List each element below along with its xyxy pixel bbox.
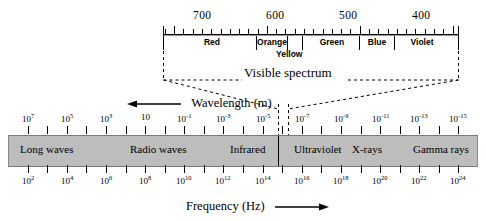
frequency-tick	[400, 165, 401, 173]
wavelength-tick	[341, 126, 342, 134]
wavelength-tick-label: 10-5	[256, 113, 270, 124]
wavelength-tick	[282, 126, 283, 134]
wavelength-tick-label: 10-7	[295, 113, 309, 124]
left-arrow-icon	[126, 99, 182, 109]
visible-minor-tick	[388, 29, 389, 34]
wavelength-axis-label: Wavelength (m)	[191, 96, 272, 110]
frequency-axis-ticks	[8, 165, 478, 174]
visible-minor-tick	[239, 29, 240, 34]
color-label-green: Green	[304, 38, 360, 47]
visible-minor-tick	[323, 29, 324, 34]
frequency-tick	[458, 165, 459, 173]
wavelength-tick-label: 10-11	[372, 113, 389, 124]
wavelength-tick	[204, 126, 205, 134]
visible-ruler-left-cap	[163, 26, 164, 35]
visible-minor-tick	[397, 29, 398, 34]
band-label-ultraviolet: Ultraviolet	[294, 143, 342, 155]
frequency-tick-label: 1018	[333, 175, 349, 186]
wavelength-tick	[243, 126, 244, 134]
frequency-tick	[145, 165, 146, 173]
frequency-tick	[302, 165, 303, 173]
color-label-blue: Blue	[359, 38, 395, 47]
band-label-xrays: X-rays	[352, 143, 382, 155]
visible-minor-tick	[350, 29, 351, 34]
band-label-gamma-rays: Gamma rays	[413, 143, 469, 155]
wavelength-tick	[263, 126, 264, 134]
wavelength-tick	[321, 126, 322, 134]
visible-minor-tick	[378, 29, 379, 34]
visible-minor-tick	[183, 29, 184, 34]
visible-minor-tick	[341, 29, 342, 34]
wavelength-tick	[439, 126, 440, 134]
frequency-tick-label: 1016	[294, 175, 310, 186]
em-spectrum-figure: 700 600 500 400 Red Orange Green Blue Vi…	[0, 0, 486, 221]
wavelength-tick-label: 103	[100, 113, 112, 124]
color-divider-start	[163, 36, 164, 50]
wavelength-tick-label: 107	[22, 113, 34, 124]
frequency-tick	[184, 165, 185, 173]
wavelength-tick-label: 10	[141, 113, 150, 122]
frequency-axis-label-group: Frequency (Hz)	[186, 199, 330, 214]
wavelength-tick	[184, 126, 185, 134]
visible-minor-tick	[443, 29, 444, 34]
frequency-tick	[361, 165, 362, 173]
color-divider-yellow-green	[302, 36, 303, 50]
wavelength-tick-label: 10-9	[334, 113, 348, 124]
frequency-tick-label: 1020	[372, 175, 388, 186]
frequency-tick	[204, 165, 205, 173]
visible-ruler-right-cap	[458, 26, 459, 35]
visible-minor-tick	[221, 29, 222, 34]
wavelength-tick-labels: 1071051031010-110-310-510-710-910-1110-1…	[0, 113, 486, 126]
visible-tick-500: 500	[339, 10, 357, 22]
frequency-tick	[86, 165, 87, 173]
frequency-axis-label: Frequency (Hz)	[186, 199, 265, 213]
frequency-tick	[126, 165, 127, 173]
band-label-radio-waves: Radio waves	[130, 143, 187, 155]
frequency-tick-label: 1022	[411, 175, 427, 186]
visible-minor-tick	[295, 29, 296, 34]
color-label-red: Red	[187, 38, 237, 47]
visible-minor-tick	[193, 29, 194, 34]
color-band-top-line	[163, 35, 459, 36]
visible-tick-400: 400	[412, 10, 430, 22]
visible-minor-tick	[258, 29, 259, 34]
spectrum-bar-right-edge	[477, 136, 478, 166]
frequency-tick	[243, 165, 244, 173]
frequency-tick	[165, 165, 166, 173]
wavelength-tick	[223, 126, 224, 134]
frequency-tick	[47, 165, 48, 173]
wavelength-tick	[165, 126, 166, 134]
frequency-tick-label: 102	[22, 175, 34, 186]
visible-color-bands: Red Orange Green Blue Violet	[163, 35, 459, 50]
visible-minor-tick	[406, 29, 407, 34]
visible-minor-tick	[304, 29, 305, 34]
visible-tick-700: 700	[193, 10, 211, 22]
frequency-tick	[282, 165, 283, 173]
spectrum-bar-left-edge	[8, 136, 9, 166]
frequency-tick	[28, 165, 29, 173]
band-label-long-waves: Long waves	[20, 143, 73, 155]
color-label-orange: Orange	[255, 38, 289, 47]
visible-tick-600: 600	[266, 10, 284, 22]
wavelength-tick	[126, 126, 127, 134]
visible-minor-tick	[332, 29, 333, 34]
wavelength-tick	[380, 126, 381, 134]
visible-minor-tick	[434, 29, 435, 34]
visible-minor-tick	[230, 29, 231, 34]
visible-major-tick	[360, 26, 361, 34]
frequency-tick	[321, 165, 322, 173]
wavelength-tick	[28, 126, 29, 134]
visible-minor-tick	[165, 29, 166, 34]
color-label-violet: Violet	[398, 38, 446, 47]
wavelength-tick	[361, 126, 362, 134]
visible-spectrum-ruler	[163, 26, 459, 35]
visible-minor-tick	[425, 29, 426, 34]
frequency-tick	[419, 165, 420, 173]
wavelength-tick	[67, 126, 68, 134]
visible-minor-tick	[285, 29, 286, 34]
visible-tick-labels: 700 600 500 400	[163, 10, 459, 24]
wavelength-tick-label: 10-15	[449, 113, 467, 124]
wavelength-axis-ticks	[8, 126, 478, 135]
frequency-tick-label: 1024	[450, 175, 466, 186]
visible-minor-tick	[211, 29, 212, 34]
